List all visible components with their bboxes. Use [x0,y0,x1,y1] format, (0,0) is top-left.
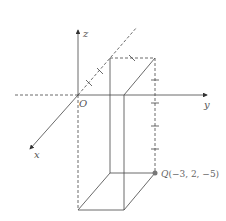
y-axis-label: y [203,99,210,110]
bottom-left-edge [78,173,110,210]
point-q [153,171,158,176]
x-axis-label: x [34,149,40,160]
bottom-right-edge [124,173,155,210]
coordinate-diagram: z y x O Q(−3, 2, −5) [0,0,226,221]
origin-label: O [79,98,87,109]
z-axis-label: z [82,28,89,39]
x-axis [30,95,78,149]
top-diagonal [124,58,155,95]
point-q-label: Q(−3, 2, −5) [161,169,219,179]
